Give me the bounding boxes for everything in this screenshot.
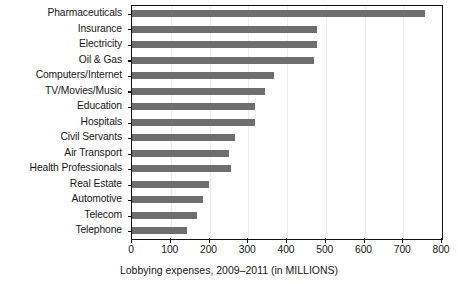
bar: [132, 103, 255, 110]
value-tick-label: 600: [355, 244, 372, 255]
category-label: Education: [77, 98, 122, 114]
category-tick: [128, 107, 132, 108]
category-label: Insurance: [78, 21, 122, 37]
category-tick: [128, 216, 132, 217]
category-label: Health Professionals: [30, 160, 122, 176]
category-tick: [128, 169, 132, 170]
plot-area: [131, 5, 443, 240]
category-tick: [128, 154, 132, 155]
value-tick-label: 500: [316, 244, 333, 255]
value-tick-label: 0: [128, 244, 134, 255]
value-tick: [402, 238, 403, 243]
category-tick: [128, 185, 132, 186]
category-label: Real Estate: [70, 176, 122, 192]
value-tick: [286, 238, 287, 243]
category-tick: [128, 14, 132, 15]
value-tick-label: 200: [200, 244, 217, 255]
value-tick: [441, 238, 442, 243]
bar: [132, 41, 317, 48]
value-tick-label: 400: [277, 244, 294, 255]
value-axis: 0100200300400500600700800: [131, 238, 441, 264]
category-tick: [128, 138, 132, 139]
value-tick: [209, 238, 210, 243]
value-tick: [364, 238, 365, 243]
category-tick: [128, 76, 132, 77]
category-tick: [128, 200, 132, 201]
category-label: Automotive: [71, 191, 122, 207]
category-label: Air Transport: [64, 145, 122, 161]
category-tick: [128, 91, 132, 92]
bar: [132, 72, 274, 79]
bar: [132, 212, 197, 219]
bar: [132, 181, 209, 188]
value-tick-label: 100: [161, 244, 178, 255]
category-label: Electricity: [79, 36, 122, 52]
category-axis-labels: PharmaceuticalsInsuranceElectricityOil &…: [0, 5, 127, 238]
value-tick-label: 700: [394, 244, 411, 255]
category-label: Oil & Gas: [79, 52, 122, 68]
value-tick-label: 800: [432, 244, 449, 255]
value-tick-label: 300: [239, 244, 256, 255]
value-tick: [247, 238, 248, 243]
bar: [132, 57, 314, 64]
bar: [132, 88, 265, 95]
bar-series: [132, 6, 442, 239]
category-label: Civil Servants: [60, 129, 122, 145]
category-tick: [128, 60, 132, 61]
bar: [132, 10, 425, 17]
category-tick: [128, 231, 132, 232]
x-axis-caption: Lobbying expenses, 2009–2011 (in MILLION…: [0, 264, 458, 276]
category-tick: [128, 123, 132, 124]
category-label: Pharmaceuticals: [47, 5, 122, 21]
category-label: TV/Movies/Music: [45, 83, 122, 99]
value-tick: [131, 238, 132, 243]
category-label: Hospitals: [81, 114, 122, 130]
bar: [132, 119, 255, 126]
category-label: Telephone: [75, 222, 122, 238]
category-tick: [128, 45, 132, 46]
bar: [132, 26, 317, 33]
value-tick: [170, 238, 171, 243]
bar: [132, 165, 231, 172]
bar: [132, 196, 203, 203]
value-tick: [325, 238, 326, 243]
bar: [132, 227, 187, 234]
bar: [132, 134, 235, 141]
category-tick: [128, 29, 132, 30]
category-label: Telecom: [84, 207, 122, 223]
bar-chart: PharmaceuticalsInsuranceElectricityOil &…: [0, 0, 458, 284]
bar: [132, 150, 229, 157]
category-label: Computers/Internet: [36, 67, 122, 83]
